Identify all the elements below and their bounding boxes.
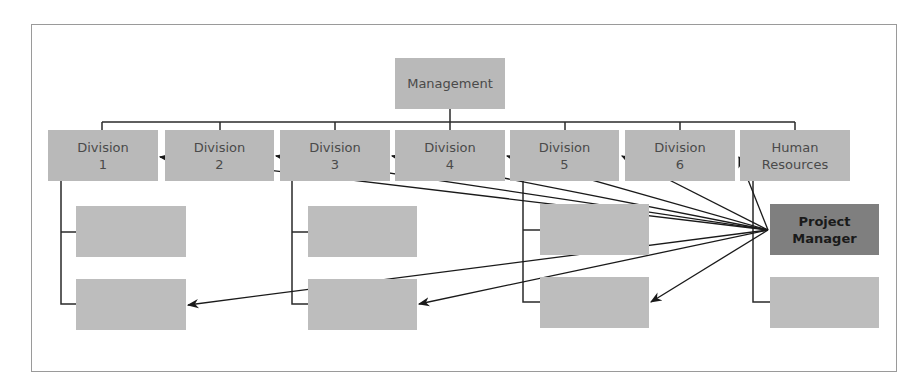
division-5-subunit-1 [540, 204, 649, 255]
division-5-subunit-2 [540, 277, 649, 328]
project-manager-box: Project Manager [770, 204, 879, 255]
division-4-box: Division 4 [395, 130, 505, 181]
division-3-subunit-1 [308, 206, 417, 257]
pm-label-line2: Manager [792, 230, 856, 247]
division-number: 1 [99, 156, 107, 173]
division-label: Division [194, 139, 246, 156]
hr-subunit-2 [770, 277, 879, 328]
division-2-box: Division 2 [165, 130, 274, 181]
division-number: 4 [446, 156, 454, 173]
management-box: Management [395, 58, 505, 109]
division-number: 5 [560, 156, 568, 173]
management-label: Management [407, 75, 493, 92]
division-1-subunit-1 [76, 206, 186, 257]
division-number: 6 [676, 156, 684, 173]
division-label: Division [309, 139, 361, 156]
division-6-box: Division 6 [625, 130, 735, 181]
division-label: Division [654, 139, 706, 156]
division-label: Division [77, 139, 129, 156]
division-label: Division [539, 139, 591, 156]
division-label: Division [424, 139, 476, 156]
pm-label-line1: Project [798, 213, 850, 230]
human-resources-box: Human Resources [740, 130, 850, 181]
division-number: 3 [331, 156, 339, 173]
hr-label-line2: Resources [762, 156, 828, 173]
division-5-box: Division 5 [510, 130, 619, 181]
division-1-box: Division 1 [48, 130, 158, 181]
division-number: 2 [215, 156, 223, 173]
division-3-subunit-2 [308, 279, 417, 330]
hr-label-line1: Human [772, 139, 819, 156]
division-1-subunit-2 [76, 279, 186, 330]
division-3-box: Division 3 [280, 130, 390, 181]
